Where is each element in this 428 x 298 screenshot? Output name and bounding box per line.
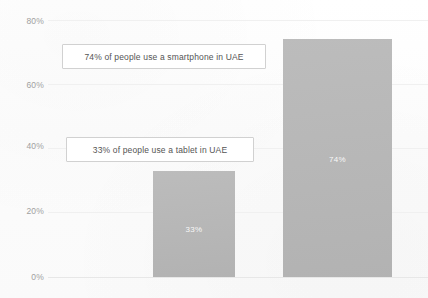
y-tick-label-40: 40%	[0, 141, 44, 151]
y-tick-label-0: 0%	[0, 272, 44, 282]
annotation-tablet[interactable]: 33% of people use a tablet in UAE	[66, 137, 254, 162]
bar-value-tablet: 33%	[153, 225, 235, 234]
bar-value-smartphone: 74%	[283, 155, 392, 164]
bar-chart: 80% 60% 40% 20% 0% 33% 74% 74% of people…	[0, 0, 428, 298]
y-tick-label-60: 60%	[0, 80, 44, 90]
y-tick-label-80: 80%	[0, 16, 44, 26]
bar-smartphone[interactable]: 74%	[283, 39, 392, 277]
bar-tablet[interactable]: 33%	[153, 171, 235, 277]
gridline-80	[48, 20, 428, 21]
y-tick-label-20: 20%	[0, 206, 44, 216]
annotation-smartphone[interactable]: 74% of people use a smartphone in UAE	[62, 44, 266, 69]
gridline-baseline-0	[48, 277, 428, 278]
